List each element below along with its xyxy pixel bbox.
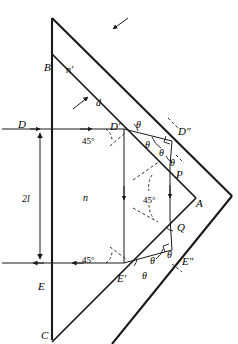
- point-label-D: D: [18, 119, 26, 130]
- normal-dash-mid-upper: [133, 161, 160, 180]
- normal-dash-Dprime: [110, 133, 125, 146]
- diagram-canvas: [0, 0, 238, 344]
- point-label-A: A: [196, 198, 203, 209]
- angle-label-45-upper: 45°: [82, 137, 95, 146]
- outer-prism-lower-face: [112, 196, 232, 344]
- angle-label-theta-e-prime-upper: θ: [150, 256, 155, 266]
- refractive-index-label-n-prime: n': [66, 65, 73, 75]
- normal-dash-P: [176, 155, 184, 163]
- normal-dash-Dpp: [168, 118, 178, 128]
- point-label-E: E: [38, 281, 45, 292]
- arc-45-lower: [106, 252, 112, 263]
- refractive-index-label-n: n: [83, 193, 88, 203]
- angle-label-theta-e-double-upper: θ: [167, 250, 172, 260]
- film-thickness-label-d: d: [96, 98, 101, 108]
- thickness-arrow-upper: [113, 18, 128, 29]
- outer-prism-upper-face: [52, 18, 232, 196]
- point-label-C: C: [41, 330, 48, 341]
- point-label-Q: Q: [177, 222, 185, 233]
- point-label-E-prime: E': [117, 273, 126, 284]
- angle-label-45-lower: 45°: [82, 256, 95, 265]
- angle-label-theta-d-prime-right: θ: [136, 120, 141, 130]
- point-label-D-prime: D': [110, 121, 120, 132]
- angle-label-theta-d-double-left: θ: [159, 148, 164, 158]
- arc-45-mid-upper: [149, 175, 152, 191]
- point-label-D-double-prime: D": [178, 126, 191, 137]
- point-label-B: B: [44, 62, 51, 73]
- normal-dash-mid-lower: [133, 208, 158, 222]
- arc-theta-Q: [166, 227, 173, 231]
- optics-ray-diagram-figure: B C D E A D' D" E' E" P Q n' d n 2l 45° …: [0, 0, 238, 344]
- angle-label-45-mid: 45°: [143, 196, 156, 205]
- angle-label-theta-d-prime-lower: θ: [145, 140, 150, 150]
- point-label-P: P: [176, 169, 183, 180]
- angle-label-theta-e-prime-lower: θ: [142, 271, 147, 281]
- angle-label-theta-p: θ: [170, 158, 175, 168]
- thickness-arrow-lower: [73, 97, 88, 109]
- point-label-E-double-prime: E": [182, 256, 193, 267]
- dimension-label-2l: 2l: [22, 194, 30, 204]
